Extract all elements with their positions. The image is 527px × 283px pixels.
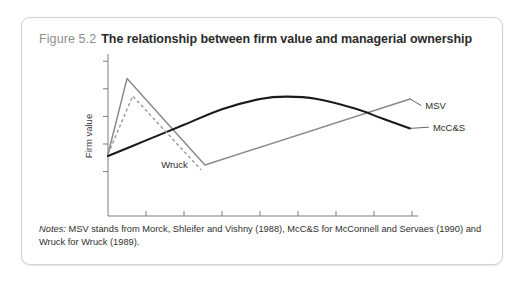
page-title: The relationship between firm value and … bbox=[101, 32, 472, 46]
chart-series-labels: MSVMcC&SWruck bbox=[161, 99, 465, 170]
figure-card: Figure 5.2The relationship between firm … bbox=[21, 17, 503, 265]
figure-number: Figure 5.2 bbox=[39, 32, 96, 46]
chart-axes: 00.10.20.30.40.50.60.70.8 bbox=[103, 54, 419, 220]
series-label-mcc-s: McC&S bbox=[433, 122, 465, 133]
leader-line bbox=[410, 99, 421, 106]
chart-axis-titles: Managerial ownershipFirm value bbox=[83, 114, 306, 220]
series-line-msv bbox=[108, 79, 410, 165]
leader-line bbox=[410, 127, 429, 128]
figure-notes: Notes: MSV stands from Morck, Shleifer a… bbox=[39, 223, 486, 249]
figure-header: Figure 5.2The relationship between firm … bbox=[39, 29, 488, 49]
notes-body-text: MSV stands from Morck, Shleifer and Vish… bbox=[39, 224, 481, 247]
notes-lead-label: Notes: bbox=[39, 224, 66, 234]
series-label-wruck: Wruck bbox=[161, 159, 188, 170]
chart-plot-area: 00.10.20.30.40.50.60.70.8 MSVMcC&SWruck … bbox=[22, 52, 502, 220]
chart-series bbox=[108, 79, 410, 170]
y-axis-title: Firm value bbox=[83, 114, 94, 158]
series-label-msv: MSV bbox=[425, 100, 446, 111]
chart-svg: 00.10.20.30.40.50.60.70.8 MSVMcC&SWruck … bbox=[22, 52, 502, 220]
